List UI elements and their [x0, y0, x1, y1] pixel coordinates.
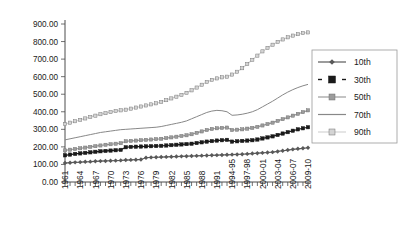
series-marker-50th — [241, 128, 244, 131]
series-marker-90th — [220, 76, 223, 79]
x-axis-tick-label: 2006-07 — [289, 159, 298, 189]
series-marker-30th — [195, 141, 198, 144]
series-marker-50th — [170, 136, 173, 139]
series-marker-50th — [175, 135, 178, 138]
x-axis-tick-label: 2009-10 — [304, 159, 313, 189]
series-marker-30th — [134, 145, 137, 148]
series-marker-10th — [230, 152, 234, 156]
y-axis-tick-label: 900.00 — [33, 20, 58, 29]
chart-canvas: 0.00100.00200.00300.00400.00500.00600.00… — [0, 0, 401, 247]
series-marker-90th — [124, 108, 127, 111]
series-marker-90th — [276, 40, 279, 43]
series-marker-30th — [230, 140, 233, 143]
series-marker-90th — [94, 114, 97, 117]
series-marker-10th — [296, 147, 300, 151]
x-axis-tick-label: 1997-98 — [243, 159, 252, 189]
series-marker-10th — [139, 157, 143, 161]
series-marker-10th — [179, 154, 183, 158]
series-marker-10th — [291, 147, 295, 151]
series-marker-90th — [190, 89, 193, 92]
series-marker-90th — [236, 70, 239, 73]
x-axis-tick-label: 1991 — [213, 170, 222, 189]
series-marker-90th — [225, 75, 228, 78]
series-marker-90th — [180, 93, 183, 96]
series-marker-10th — [184, 154, 188, 158]
series-marker-10th — [164, 155, 168, 159]
series-marker-50th — [104, 143, 107, 146]
series-marker-90th — [200, 83, 203, 86]
y-axis-tick-label: 300.00 — [33, 125, 58, 134]
series-marker-50th — [119, 142, 122, 145]
series-marker-90th — [155, 102, 158, 105]
series-marker-30th — [210, 139, 213, 142]
series-marker-50th — [99, 144, 102, 147]
series-marker-30th — [68, 153, 71, 156]
legend-label-30th: 30th — [354, 75, 371, 85]
series-marker-10th — [144, 156, 148, 160]
x-axis-tick-label: 1988 — [198, 170, 207, 189]
series-marker-50th — [210, 127, 213, 130]
series-marker-50th — [89, 145, 92, 148]
series-marker-50th — [236, 128, 239, 131]
series-marker-90th — [246, 62, 249, 65]
series-marker-30th — [215, 139, 218, 142]
series-marker-10th — [189, 154, 193, 158]
series-marker-10th — [270, 150, 274, 154]
series-marker-90th — [74, 120, 77, 123]
series-marker-90th — [230, 73, 233, 76]
series-marker-10th — [205, 153, 209, 157]
series-marker-10th — [215, 153, 219, 157]
series-marker-90th — [306, 31, 309, 34]
series-marker-30th — [205, 140, 208, 143]
series-marker-50th — [281, 118, 284, 121]
series-marker-50th — [215, 127, 218, 130]
series-marker-10th — [98, 159, 102, 163]
series-marker-90th — [165, 99, 168, 102]
series-marker-30th — [99, 150, 102, 153]
series-marker-30th — [271, 135, 274, 138]
series-marker-90th — [144, 104, 147, 107]
series-marker-50th — [230, 128, 233, 131]
series-marker-30th — [129, 145, 132, 148]
series-marker-10th — [194, 154, 198, 158]
series-marker-30th — [261, 137, 264, 140]
series-marker-10th — [286, 148, 290, 152]
series-marker-50th — [296, 112, 299, 115]
series-marker-30th — [144, 145, 147, 148]
x-axis-tick-label: 1961 — [61, 170, 70, 189]
series-marker-90th — [68, 121, 71, 124]
series-marker-10th — [255, 151, 259, 155]
legend-marker-50th — [329, 94, 335, 100]
y-axis-tick-label: 700.00 — [33, 55, 58, 64]
series-marker-90th — [291, 34, 294, 37]
series-marker-50th — [261, 124, 264, 127]
series-marker-10th — [78, 160, 82, 164]
series-marker-10th — [113, 158, 117, 162]
series-marker-50th — [220, 126, 223, 129]
series-marker-50th — [256, 125, 259, 128]
series-marker-50th — [144, 138, 147, 141]
series-marker-90th — [256, 54, 259, 57]
x-axis-tick-label: 1976 — [137, 170, 146, 189]
series-marker-10th — [149, 155, 153, 159]
series-marker-30th — [109, 149, 112, 152]
series-marker-50th — [94, 145, 97, 148]
series-marker-10th — [118, 158, 122, 162]
series-marker-50th — [190, 133, 193, 136]
series-marker-50th — [165, 137, 168, 140]
series-marker-30th — [165, 144, 168, 147]
y-axis-tick-label: 400.00 — [33, 108, 58, 117]
series-marker-50th — [160, 137, 163, 140]
y-axis-tick-label: 200.00 — [33, 143, 58, 152]
series-marker-10th — [260, 151, 264, 155]
series-marker-30th — [246, 139, 249, 142]
series-marker-10th — [174, 154, 178, 158]
series-marker-50th — [251, 126, 254, 129]
series-marker-90th — [261, 50, 264, 53]
series-marker-10th — [250, 151, 254, 155]
series-marker-30th — [78, 152, 81, 155]
series-marker-30th — [220, 139, 223, 142]
series-marker-10th — [210, 153, 214, 157]
series-marker-50th — [149, 138, 152, 141]
series-marker-90th — [84, 117, 87, 120]
